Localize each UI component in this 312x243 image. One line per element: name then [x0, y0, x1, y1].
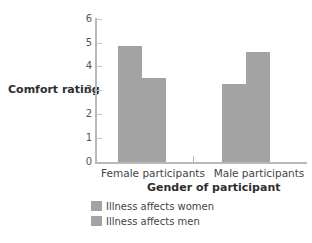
legend-label-men: Illness affects men	[106, 217, 200, 227]
legend-label-women: Illness affects women	[106, 202, 214, 212]
bar-female-illness-affects-women	[118, 46, 142, 162]
legend-swatch-men	[91, 216, 102, 226]
y-tick	[97, 90, 102, 91]
bar-male-illness-affects-women	[222, 84, 246, 162]
y-tick-label: 0	[82, 157, 92, 167]
x-axis-title: Gender of participant	[147, 181, 281, 194]
y-tick-label: 3	[82, 85, 92, 95]
y-axis-line	[95, 18, 97, 164]
x-category-label-male: Male participants	[204, 167, 312, 179]
y-tick-label: 1	[82, 133, 92, 143]
y-tick	[97, 66, 102, 67]
x-axis-line	[95, 162, 307, 164]
y-tick-label: 2	[82, 109, 92, 119]
y-tick-label: 6	[82, 14, 92, 24]
y-tick	[97, 114, 102, 115]
bar-male-illness-affects-men	[246, 52, 270, 162]
x-category-label-female: Female participants	[98, 167, 208, 179]
bar-female-illness-affects-men	[142, 78, 166, 162]
x-axis-divider-tick	[193, 156, 194, 163]
y-tick	[97, 43, 102, 44]
y-tick-label: 5	[82, 38, 92, 48]
y-tick	[97, 138, 102, 139]
legend-swatch-women	[91, 201, 102, 211]
y-tick	[97, 19, 102, 20]
y-tick-label: 4	[82, 61, 92, 71]
